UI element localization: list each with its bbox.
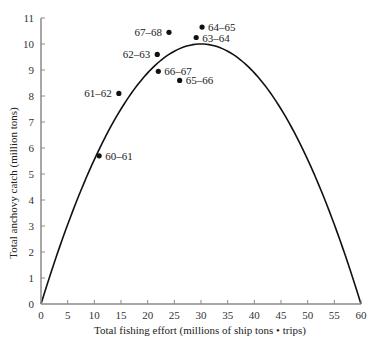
x-tick-label: 5 — [65, 309, 71, 321]
data-point-label: 67–68 — [135, 26, 163, 38]
y-tick-label: 0 — [29, 298, 35, 310]
anchovy-catch-chart: 051015202530354045505560 01234567891011 … — [0, 0, 374, 343]
y-tick-label: 3 — [29, 220, 35, 232]
data-point-label: 64–65 — [208, 21, 236, 33]
data-point-label: 62–63 — [123, 48, 151, 60]
data-point — [156, 69, 161, 74]
x-tick-label: 20 — [142, 309, 154, 321]
data-point — [194, 35, 199, 40]
data-point-label: 66–67 — [164, 65, 192, 77]
data-point — [199, 25, 204, 30]
axes: 051015202530354045505560 01234567891011 — [23, 12, 367, 321]
y-tick-label: 9 — [29, 64, 35, 76]
data-point — [166, 30, 171, 35]
x-tick-label: 45 — [276, 309, 288, 321]
data-point — [155, 52, 160, 57]
y-tick-label: 10 — [23, 38, 35, 50]
y-tick-label: 8 — [29, 90, 35, 102]
x-tick-label: 55 — [329, 309, 341, 321]
y-tick-label: 2 — [29, 246, 35, 258]
x-tick-label: 25 — [169, 309, 181, 321]
y-tick-label: 4 — [29, 194, 35, 206]
x-tick-label: 50 — [302, 309, 314, 321]
data-point — [97, 153, 102, 158]
x-ticks: 051015202530354045505560 — [38, 300, 367, 321]
y-tick-label: 6 — [29, 142, 35, 154]
x-tick-label: 60 — [356, 309, 368, 321]
y-tick-label: 1 — [29, 272, 35, 284]
y-tick-label: 7 — [29, 116, 35, 128]
x-tick-label: 15 — [116, 309, 128, 321]
x-tick-label: 0 — [38, 309, 44, 321]
x-tick-label: 40 — [249, 309, 261, 321]
x-tick-label: 10 — [89, 309, 101, 321]
x-tick-label: 35 — [222, 309, 234, 321]
data-point — [116, 91, 121, 96]
y-tick-label: 5 — [29, 168, 35, 180]
data-point-label: 60–61 — [105, 150, 133, 162]
data-point — [177, 78, 182, 83]
x-tick-label: 30 — [196, 309, 208, 321]
data-points: 60–6161–6262–6363–6464–6565–6666–6767–68 — [84, 21, 236, 162]
y-axis-label: Total anchovy catch (million tons) — [7, 107, 20, 259]
x-axis-label: Total fishing effort (millions of ship t… — [94, 324, 306, 337]
data-point-label: 63–64 — [202, 32, 230, 44]
y-tick-label: 11 — [23, 12, 34, 24]
data-point-label: 61–62 — [84, 87, 112, 99]
